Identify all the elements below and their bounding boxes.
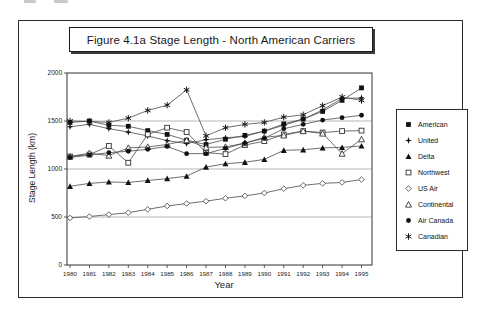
air-canada-marker-icon (68, 155, 73, 160)
northwest-marker-icon (126, 160, 131, 165)
american-marker-icon (126, 124, 131, 129)
x-tick-label: 1991 (277, 270, 291, 277)
us-air-marker-icon (223, 195, 229, 201)
x-tick-label: 1983 (121, 270, 135, 277)
american-marker-icon (359, 85, 364, 90)
legend-label: Canadian (418, 233, 448, 240)
y-axis-title: Stage Length (km) (27, 113, 37, 223)
american-legend-marker-icon (406, 123, 411, 128)
northwest-marker-icon (223, 152, 228, 157)
united-marker-icon (125, 129, 132, 136)
legend-item-canadian: Canadian (403, 228, 465, 244)
air-canada-marker-icon (320, 118, 325, 123)
us-air-marker-icon (106, 212, 112, 218)
x-tick-label: 1985 (160, 270, 174, 277)
us-air-marker-icon (184, 201, 190, 207)
y-tick-label: 1500 (48, 117, 63, 124)
canadian-legend-marker-icon (403, 231, 414, 242)
us-air-marker-icon (67, 215, 73, 221)
us-air-marker-icon (242, 193, 248, 199)
northwest-marker-icon (184, 130, 189, 135)
x-tick-label: 1981 (83, 270, 97, 277)
legend-label: Delta (418, 153, 434, 160)
air-canada-marker-icon (301, 122, 306, 127)
canadian-marker-icon (320, 102, 326, 108)
canadian-marker-icon (184, 87, 190, 93)
canadian-line (70, 90, 362, 136)
y-tick-label: 2000 (48, 69, 63, 76)
x-tick-label: 1994 (335, 270, 349, 277)
legend-item-delta: Delta (403, 149, 465, 165)
canadian-marker-icon (126, 115, 132, 121)
legend-label: American (418, 121, 448, 128)
page-artifact (24, 0, 36, 3)
continental-marker-icon (359, 136, 365, 142)
continental-legend-marker-icon (406, 201, 412, 207)
us-air-legend-marker-icon (406, 186, 412, 192)
us-air-marker-icon (281, 186, 287, 192)
us-air-marker-icon (126, 210, 132, 216)
air-canada-marker-icon (204, 151, 209, 156)
x-tick-label: 1995 (355, 270, 369, 277)
x-tick-label: 1992 (296, 270, 310, 277)
y-tick-label: 0 (58, 261, 62, 268)
air-canada-legend-marker-icon (406, 218, 411, 223)
continental-legend-marker-icon (403, 199, 414, 210)
legend-item-continental: Continental (403, 196, 465, 212)
legend-item-american: American (403, 117, 465, 133)
x-tick-label: 1993 (316, 270, 330, 277)
delta-marker-icon (261, 156, 267, 162)
united-legend-marker-icon (405, 137, 412, 144)
delta-marker-icon (184, 173, 190, 179)
x-tick-label: 1984 (141, 270, 155, 277)
us-air-marker-icon (339, 180, 345, 186)
us-air-marker-icon (203, 198, 209, 204)
american-marker-icon (165, 132, 170, 137)
x-tick-label: 1987 (199, 270, 213, 277)
air-canada-marker-icon (126, 149, 131, 154)
air-canada-marker-icon (106, 150, 111, 155)
air-canada-marker-icon (184, 151, 189, 156)
air-canada-legend-marker-icon (403, 215, 414, 226)
air-canada-marker-icon (145, 147, 150, 152)
northwest-series (68, 125, 364, 165)
air-canada-marker-icon (262, 136, 267, 141)
us-air-marker-icon (145, 207, 151, 213)
us-air-marker-icon (87, 214, 93, 220)
northwest-marker-icon (165, 125, 170, 130)
x-tick-label: 1980 (63, 270, 77, 277)
us-air-marker-icon (164, 203, 170, 209)
x-axis-title: Year (169, 279, 279, 290)
american-legend-marker-icon (403, 119, 414, 130)
air-canada-marker-icon (281, 126, 286, 131)
united-legend-marker-icon (403, 135, 414, 146)
legend-item-air-canada: Air Canada (403, 212, 465, 228)
y-tick-label: 500 (51, 213, 62, 220)
canadian-marker-icon (203, 133, 209, 139)
american-line (70, 88, 362, 145)
air-canada-marker-icon (223, 146, 228, 151)
x-tick-label: 1989 (238, 270, 252, 277)
canadian-marker-icon (164, 102, 170, 108)
canadian-legend-marker-icon (406, 233, 412, 239)
legend-label: Continental (418, 201, 453, 208)
legend-label: Northwest (418, 169, 450, 176)
legend-item-united: United (403, 133, 465, 149)
y-tick-label: 1000 (48, 165, 63, 172)
canadian-marker-icon (145, 107, 151, 113)
chart-legend: AmericanUnitedDeltaNorthwestUS AirContin… (396, 109, 468, 251)
legend-item-us-air: US Air (403, 181, 465, 197)
us-air-legend-marker-icon (403, 183, 414, 194)
northwest-marker-icon (359, 128, 364, 133)
us-air-marker-icon (300, 183, 306, 189)
legend-label: United (418, 137, 438, 144)
northwest-marker-icon (145, 132, 150, 137)
american-series (68, 85, 364, 146)
air-canada-marker-icon (165, 144, 170, 149)
x-tick-label: 1990 (257, 270, 271, 277)
northwest-marker-icon (340, 129, 345, 134)
air-canada-marker-icon (87, 153, 92, 158)
legend-item-northwest: Northwest (403, 165, 465, 181)
northwest-legend-marker-icon (406, 170, 411, 175)
page-artifact (54, 0, 68, 3)
